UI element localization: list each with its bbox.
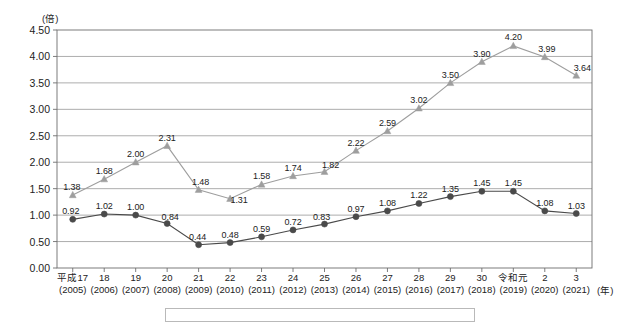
data-point-label: 1.02 <box>96 201 113 211</box>
y-axis-tick-label: 1.00 <box>6 209 50 221</box>
x-axis-tick-label: 24(2012) <box>279 272 306 295</box>
data-point-label: 0.97 <box>347 204 364 214</box>
data-point-label: 1.22 <box>410 190 427 200</box>
data-point-label: 1.08 <box>536 198 553 208</box>
y-axis-tick-label: 4.00 <box>6 50 50 62</box>
x-axis-tick-label: 25(2013) <box>311 272 338 295</box>
data-point-label: 1.45 <box>505 178 522 188</box>
legend-box <box>165 308 475 322</box>
data-point-label: 2.59 <box>379 118 396 128</box>
x-axis-tick-label: 2(2020) <box>531 272 558 295</box>
x-axis-tick-label: 23(2011) <box>248 272 275 295</box>
data-point-label: 1.48 <box>192 177 209 187</box>
data-point-label: 0.72 <box>284 217 301 227</box>
y-axis-tick-label: 2.00 <box>6 156 50 168</box>
y-axis-tick-label: 1.50 <box>6 183 50 195</box>
data-point-label: 0.48 <box>222 230 239 240</box>
data-point-label: 3.64 <box>574 63 591 73</box>
x-axis-tick-label: 3(2021) <box>563 272 590 295</box>
data-point-label: 1.68 <box>96 166 113 176</box>
x-axis-tick-label: 28(2016) <box>405 272 432 295</box>
data-point-label: 2.22 <box>347 138 364 148</box>
y-axis-tick-label: 3.00 <box>6 103 50 115</box>
x-axis-tick-label: 21(2009) <box>185 272 212 295</box>
y-axis-unit-label: (倍) <box>42 11 58 25</box>
data-point-label: 2.31 <box>159 133 176 143</box>
data-point-label: 3.02 <box>410 95 427 105</box>
x-axis-tick-label: 22(2010) <box>216 272 243 295</box>
x-axis-tick-label: 29(2017) <box>437 272 464 295</box>
data-point-label: 1.45 <box>473 178 490 188</box>
data-point-label: 1.38 <box>63 182 80 192</box>
data-point-label: 1.58 <box>253 171 270 181</box>
data-point-label: 1.74 <box>284 163 301 173</box>
data-point-label: 3.90 <box>473 49 490 59</box>
x-axis-tick-label: 平成17(2005) <box>57 272 88 295</box>
y-axis-tick-label: 2.50 <box>6 130 50 142</box>
data-point-label: 3.50 <box>442 70 459 80</box>
data-point-label: 4.20 <box>505 32 522 42</box>
y-axis-tick-label: 0.00 <box>6 262 50 274</box>
x-axis-tick-label: 20(2008) <box>153 272 180 295</box>
x-axis-tick-label: 30(2018) <box>468 272 495 295</box>
data-point-label: 2.00 <box>127 149 144 159</box>
data-point-label: 1.03 <box>568 201 585 211</box>
data-point-label: 0.84 <box>162 212 179 222</box>
y-axis-tick-label: 0.50 <box>6 236 50 248</box>
x-axis-tick-label: 19(2007) <box>122 272 149 295</box>
data-point-label: 1.35 <box>442 184 459 194</box>
data-point-label: 1.82 <box>322 160 339 170</box>
data-point-label: 1.00 <box>127 202 144 212</box>
x-axis-tick-label: 26(2014) <box>342 272 369 295</box>
data-point-label: 0.92 <box>62 206 79 216</box>
x-axis-unit-label: (年) <box>597 283 613 297</box>
y-axis-tick-label: 4.50 <box>6 24 50 36</box>
data-point-label: 0.44 <box>189 232 206 242</box>
data-point-label: 0.83 <box>313 212 330 222</box>
x-axis-tick-label: 令和元(2019) <box>498 272 528 295</box>
data-point-label: 3.99 <box>538 44 555 54</box>
x-axis-tick-label: 18(2006) <box>90 272 117 295</box>
y-axis-tick-marks <box>53 30 57 268</box>
data-point-label: 0.59 <box>253 224 270 234</box>
x-axis-tick-label: 27(2015) <box>374 272 401 295</box>
data-point-label: 1.08 <box>379 198 396 208</box>
data-point-label: 1.31 <box>231 195 248 205</box>
y-axis-tick-label: 3.50 <box>6 77 50 89</box>
